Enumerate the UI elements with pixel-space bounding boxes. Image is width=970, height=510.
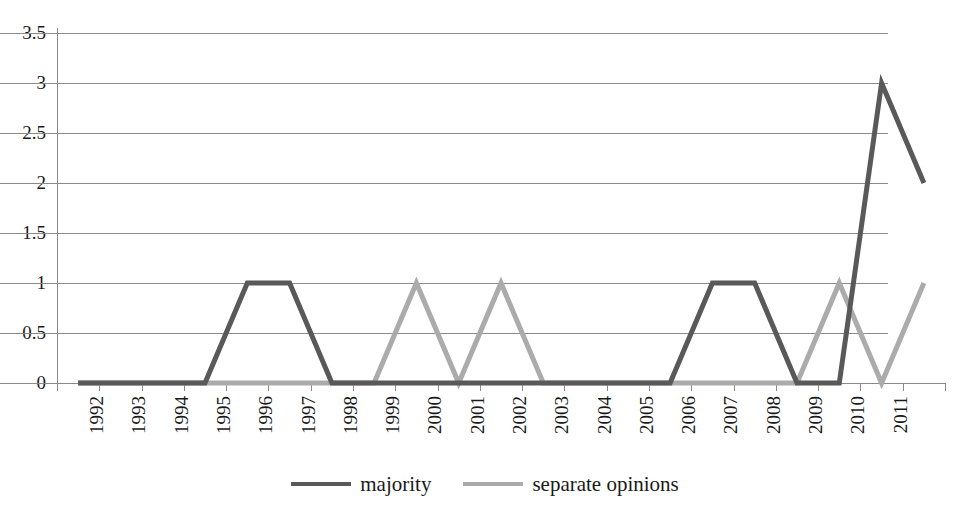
x-axis-tick (818, 383, 819, 391)
x-axis-tick (184, 383, 185, 391)
x-axis-tick-label: 1992 (87, 396, 106, 434)
x-axis-tick (564, 383, 565, 391)
x-axis-tick-label: 2001 (468, 396, 487, 434)
x-axis-tick-label: 2004 (595, 396, 614, 434)
legend-swatch-majority (291, 482, 351, 486)
gridline (0, 33, 888, 34)
x-axis-tick (691, 383, 692, 391)
x-axis-tick-label: 1995 (214, 396, 233, 434)
gridline (0, 333, 888, 334)
x-axis-tick-label: 2010 (848, 396, 867, 434)
x-axis-tick (226, 383, 227, 391)
line-chart: 00.511.522.533.5 19921993199419951996199… (0, 0, 970, 510)
x-axis-tick (860, 383, 861, 391)
x-axis-tick (649, 383, 650, 391)
x-axis-tick (776, 383, 777, 391)
gridline (0, 233, 888, 234)
x-axis-tick-label: 2000 (425, 396, 444, 434)
x-axis-tick (945, 383, 946, 391)
x-axis-tick (311, 383, 312, 391)
x-axis-tick (903, 383, 904, 391)
legend-swatch-separate-opinions (463, 482, 523, 486)
x-axis-tick-label: 2009 (806, 396, 825, 434)
x-axis-tick (99, 383, 100, 391)
x-axis-tick-label: 1994 (172, 396, 191, 434)
x-axis-tick (522, 383, 523, 391)
x-axis-tick-label: 2005 (637, 396, 656, 434)
x-axis-tick-label: 2003 (552, 396, 571, 434)
legend-item-majority: majority (291, 474, 431, 495)
x-axis-tick-label: 1999 (383, 396, 402, 434)
x-axis-tick (438, 383, 439, 391)
y-axis-line (57, 28, 58, 388)
legend-label-separate-opinions: separate opinions (532, 474, 678, 495)
gridline (0, 83, 888, 84)
gridline (0, 383, 888, 384)
x-axis-tick-label: 1993 (129, 396, 148, 434)
x-axis-tick (142, 383, 143, 391)
x-axis-tick-label: 2006 (679, 396, 698, 434)
x-axis-tick (607, 383, 608, 391)
x-axis-tick-label: 1997 (299, 396, 318, 434)
x-axis-tick-label: 2011 (891, 396, 910, 433)
x-axis-tick (268, 383, 269, 391)
legend-item-separate-opinions: separate opinions (463, 474, 678, 495)
gridline (0, 133, 888, 134)
legend-label-majority: majority (360, 474, 431, 495)
x-axis-tick (734, 383, 735, 391)
x-axis-tick (480, 383, 481, 391)
x-axis-tick-label: 2007 (721, 396, 740, 434)
x-axis-tick (353, 383, 354, 391)
x-axis-tick-label: 1996 (256, 396, 275, 434)
x-axis-tick (395, 383, 396, 391)
x-axis-tick-label: 2002 (510, 396, 529, 434)
chart-legend: majority separate opinions (0, 466, 970, 502)
x-axis-tick-label: 1998 (341, 396, 360, 434)
x-axis-tick-label: 2008 (764, 396, 783, 434)
gridline (0, 283, 888, 284)
gridline (0, 183, 888, 184)
x-axis-tick (57, 383, 58, 391)
